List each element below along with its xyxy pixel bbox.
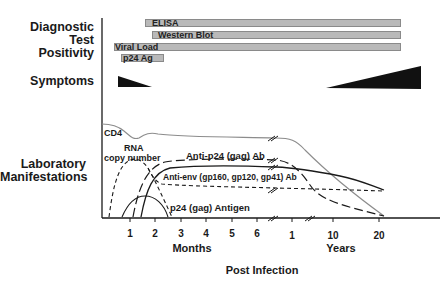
tick-month-5: 5 [229, 228, 235, 239]
tick-month-3: 3 [178, 228, 184, 239]
tick-month-2: 2 [152, 228, 158, 239]
anti-p24-gag-ab-label: Anti-p24 (gag) Ab [186, 151, 265, 161]
rna-label: RNA [124, 143, 144, 153]
hiv-infection-timeline-diagram: Diagnostic Test Positivity Symptoms Labo… [0, 0, 448, 293]
tick-month-6: 6 [254, 228, 260, 239]
diagram-graphics [0, 0, 448, 293]
late-symptoms-triangle [326, 66, 421, 89]
tick-month-4: 4 [203, 228, 209, 239]
acute-symptoms-triangle [118, 76, 152, 87]
copy-number-label: copy number [104, 153, 161, 163]
cd4-label: CD4 [104, 128, 122, 138]
p24-gag-antigen-label: p24 (gag) Antigen [170, 203, 250, 213]
tick-month-1: 1 [127, 228, 133, 239]
years-axis-label: Years [326, 242, 355, 254]
months-axis-label: Months [172, 242, 211, 254]
post-infection-title: Post Infection [226, 264, 299, 276]
tick-year-1: 1 [289, 230, 295, 241]
anti-env-ab-label: Anti-env (gp160, gp120, gp41) Ab [163, 172, 297, 182]
tick-year-20: 20 [373, 230, 384, 241]
tick-year-10: 10 [327, 230, 338, 241]
